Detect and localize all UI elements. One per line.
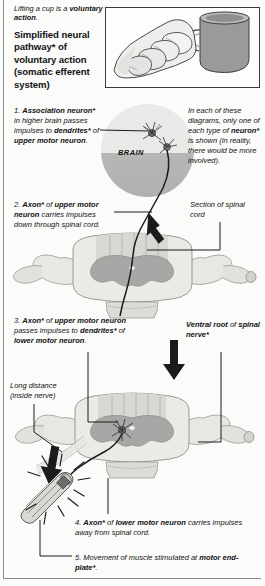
upper-motor-neuron-cell-body [159, 137, 177, 153]
pathway-diagram-overlay [0, 0, 265, 586]
direction-arrow-middle [163, 340, 185, 380]
leader-step-1 [100, 130, 148, 131]
leader-step-5 [40, 520, 72, 556]
diagram-page: Lifting a cup is a voluntary action. Sim… [0, 0, 265, 586]
